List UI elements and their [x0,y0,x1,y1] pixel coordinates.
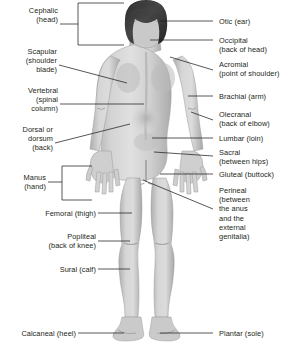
right-hand [173,151,207,194]
label-perineal: Perineal (between the anus and the exter… [219,186,292,241]
label-otic: Otic (ear) [219,17,292,26]
label-cephalic: Cephalic (head) [2,6,58,24]
right-foot [149,317,180,341]
leader-cephalic [60,3,124,45]
label-occipital: Occipital (back of head) [219,36,292,54]
label-acromial: Acromial (point of shoulder) [219,60,292,78]
right-scapula-shading [151,63,175,93]
label-olecranal: Olecranal (back of elbow) [219,110,292,128]
label-dorsal: Dorsal or dorsum (back) [1,125,53,153]
label-lumbar: Lumbar (loin) [219,134,292,143]
label-calcaneal: Calcaneal (heel) [2,329,76,338]
inner-leg-gap-shadow [145,182,148,317]
leader-manus [48,166,92,200]
left-leg [119,178,142,317]
right-arm [173,56,203,151]
label-femoral: Femoral (thigh) [2,209,96,218]
human-figure-posterior [86,0,207,341]
label-manus: Manus (hand) [0,173,46,191]
label-plantar: Plantar (sole) [219,329,292,338]
label-sural: Sural (calf) [2,265,96,274]
left-scapula-shading [116,63,140,93]
label-sacral: Sacral (between hips) [219,148,292,166]
label-popliteal: Popliteal (back of knee) [2,232,96,250]
lumbar-shading [130,104,162,132]
label-vertebral: Vertebral (spinal column) [2,86,58,114]
right-leg [151,178,174,317]
label-brachial: Brachial (arm) [219,92,292,101]
left-foot [113,317,144,341]
label-scapular: Scapular (shoulder blade) [1,47,57,75]
sacral-region-shading [134,133,158,151]
label-gluteal: Gluteal (buttock) [219,170,292,179]
